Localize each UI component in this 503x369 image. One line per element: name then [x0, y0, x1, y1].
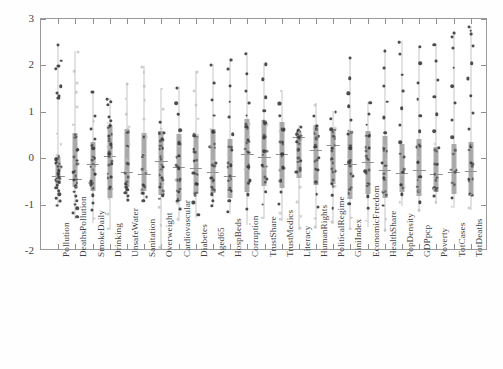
data-point — [195, 103, 198, 106]
y-tick-mark — [41, 65, 46, 66]
data-point — [245, 72, 248, 75]
data-point — [59, 85, 62, 88]
category-strip[interactable] — [204, 19, 221, 249]
data-point — [124, 158, 127, 161]
x-tick-label: HumanRights — [319, 205, 329, 257]
data-point — [227, 161, 230, 164]
x-tick-label: Sanitation — [147, 219, 157, 257]
data-point — [384, 229, 387, 232]
data-point — [470, 61, 474, 65]
category-strip[interactable] — [239, 19, 256, 249]
data-point — [365, 123, 368, 126]
data-point — [382, 190, 385, 193]
data-point — [349, 164, 352, 167]
data-point — [367, 113, 370, 116]
data-point — [403, 168, 405, 171]
data-point — [467, 77, 470, 80]
data-point — [471, 178, 474, 181]
category-strip[interactable] — [256, 19, 273, 249]
data-point — [227, 145, 230, 148]
data-point — [213, 165, 216, 168]
median-line — [430, 174, 442, 175]
data-point — [210, 145, 213, 148]
data-point — [246, 193, 249, 196]
data-point — [231, 132, 235, 136]
y-tick-mark — [41, 19, 46, 20]
y-tick-mark-right — [481, 205, 486, 206]
median-line — [361, 162, 373, 163]
data-point — [247, 164, 250, 167]
data-point — [401, 90, 404, 93]
data-point — [125, 113, 128, 116]
data-point — [248, 135, 251, 138]
data-point — [143, 99, 146, 102]
data-point — [211, 179, 214, 182]
data-point — [109, 119, 112, 122]
data-point — [364, 172, 367, 175]
data-point — [331, 221, 334, 224]
data-point — [109, 100, 112, 103]
data-point — [248, 123, 251, 126]
x-tick-label: Cardiovascular — [182, 200, 192, 257]
data-point — [174, 102, 178, 106]
data-point — [331, 130, 334, 133]
data-point — [76, 106, 79, 109]
data-point — [213, 114, 216, 117]
data-point — [399, 183, 402, 186]
data-point — [315, 193, 318, 196]
data-point — [230, 148, 233, 151]
density-band — [142, 133, 147, 191]
data-point — [382, 204, 385, 207]
data-point — [161, 87, 163, 89]
category-strip[interactable] — [222, 19, 239, 249]
data-point — [419, 114, 422, 117]
data-point — [383, 49, 386, 52]
data-point — [230, 146, 232, 149]
data-point — [418, 201, 421, 204]
data-point — [435, 189, 438, 192]
category-strip[interactable] — [50, 19, 67, 249]
y-tick-mark-right — [481, 19, 486, 20]
data-point — [214, 189, 217, 192]
data-point — [264, 95, 268, 99]
data-point — [261, 203, 264, 206]
data-point — [75, 82, 78, 85]
data-point — [193, 89, 196, 92]
data-point — [418, 129, 422, 133]
x-tick-label: TrustShare — [268, 216, 278, 257]
data-point — [213, 142, 216, 145]
data-point — [110, 155, 113, 158]
data-point — [89, 165, 92, 168]
category-strip[interactable] — [428, 19, 445, 249]
x-tick-label: Drinking — [113, 223, 123, 257]
data-point — [299, 186, 302, 189]
x-tick-label: Corruption — [250, 216, 260, 257]
category-strip[interactable] — [445, 19, 462, 249]
data-point — [469, 32, 472, 35]
x-tick-label: EconomicFreedom — [371, 186, 381, 257]
data-point — [332, 178, 335, 181]
data-point — [57, 96, 60, 99]
data-point — [162, 182, 165, 185]
data-point — [281, 143, 284, 146]
category-strip[interactable] — [462, 19, 479, 249]
data-point — [75, 91, 78, 94]
data-point — [90, 169, 93, 172]
data-point — [161, 192, 164, 195]
data-point — [127, 176, 130, 179]
data-point — [418, 209, 421, 212]
data-point — [263, 109, 266, 112]
data-point — [433, 129, 437, 133]
data-point — [245, 208, 248, 211]
data-point — [58, 177, 61, 180]
data-point — [300, 138, 302, 141]
data-point — [400, 193, 403, 196]
data-point — [56, 43, 59, 46]
data-point — [74, 134, 77, 137]
median-line — [465, 171, 477, 172]
data-point — [437, 146, 440, 149]
data-point — [400, 106, 404, 110]
data-point — [435, 59, 438, 62]
data-point — [246, 142, 249, 145]
data-point — [418, 45, 421, 48]
